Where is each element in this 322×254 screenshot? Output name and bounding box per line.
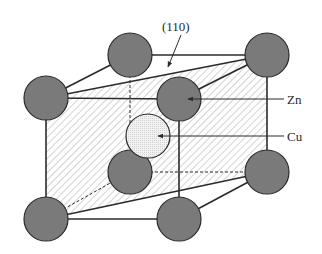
zn-atom-front-bottom-left: [24, 197, 68, 241]
zn-label: Zn: [287, 92, 302, 107]
plane-label-arrow: [168, 35, 181, 67]
zn-atom-back-top-right: [245, 33, 289, 77]
cu-label: Cu: [287, 129, 303, 144]
zn-atom-front-top-left: [24, 76, 68, 120]
zn-atom-back-bottom-right: [245, 150, 289, 194]
zn-atom-front-bottom-right: [157, 197, 201, 241]
zn-atom-back-top-left: [108, 33, 152, 77]
crystal-unit-cell-diagram: (110) Zn Cu: [0, 0, 322, 254]
plane-label: (110): [162, 19, 190, 34]
